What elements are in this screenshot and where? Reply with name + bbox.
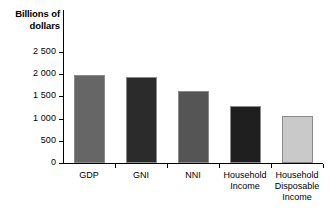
x-axis-category-label: HouseholdIncome	[219, 170, 271, 192]
bar	[74, 75, 105, 163]
y-axis-tick	[59, 163, 64, 164]
x-axis-category-label: HouseholdDisposableIncome	[271, 170, 323, 203]
x-axis-category-label-line: Household	[219, 170, 271, 181]
bar	[126, 77, 157, 163]
x-axis-category-label-line: GNI	[115, 170, 167, 181]
y-axis-title-line-2: dollars	[2, 20, 60, 32]
x-axis-category-label-line: Income	[219, 181, 271, 192]
x-axis-category-label-line: Disposable	[271, 181, 323, 192]
y-axis-tick-label: 1 500	[8, 91, 56, 100]
bar-chart: Billions of dollars 05001 0001 5002 0002…	[0, 0, 333, 220]
bar	[178, 91, 209, 163]
y-axis-tick	[59, 74, 64, 75]
y-axis-tick-label: 2 000	[8, 69, 56, 78]
x-axis-tick	[115, 164, 116, 168]
x-axis-line	[63, 163, 323, 164]
x-axis-tick	[167, 164, 168, 168]
bar	[282, 116, 313, 163]
x-axis-category-label-line: GDP	[63, 170, 115, 181]
x-axis-tick	[271, 164, 272, 168]
y-axis-tick	[59, 96, 64, 97]
y-axis-title-line-1: Billions of	[2, 8, 60, 20]
x-axis-category-label: NNI	[167, 170, 219, 181]
x-axis-tick	[219, 164, 220, 168]
y-axis-tick	[59, 52, 64, 53]
y-axis-tick	[59, 141, 64, 142]
y-axis-tick-label: 0	[8, 158, 56, 167]
y-axis-tick-label: 2 500	[8, 47, 56, 56]
x-axis-category-label: GNI	[115, 170, 167, 181]
y-axis-title: Billions of dollars	[2, 8, 60, 32]
x-axis-category-label-line: Income	[271, 192, 323, 203]
x-axis-tick	[323, 164, 324, 168]
y-axis-tick-label: 500	[8, 136, 56, 145]
x-axis-category-label: GDP	[63, 170, 115, 181]
y-axis-tick	[59, 119, 64, 120]
x-axis-category-label-line: Household	[271, 170, 323, 181]
x-axis-category-label-line: NNI	[167, 170, 219, 181]
y-axis-tick-label: 1 000	[8, 114, 56, 123]
bar	[230, 106, 261, 163]
